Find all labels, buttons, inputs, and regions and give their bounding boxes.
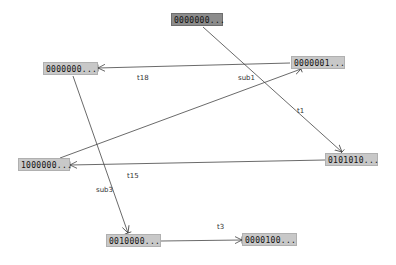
graph-node[interactable]: 0000100... (242, 233, 297, 246)
edge-label-t18: t18 (137, 74, 149, 82)
edge-label-t1: t1 (297, 107, 304, 115)
edge-t18[interactable] (98, 63, 290, 68)
graph-node-initial[interactable]: 0000000... (171, 13, 223, 26)
edge-sub1[interactable] (60, 69, 301, 158)
edge-label-sub1: sub1 (238, 74, 255, 82)
edge-t15[interactable] (70, 160, 325, 165)
graph-node[interactable]: 1000000... (18, 158, 70, 171)
edge-label-t15: t15 (127, 172, 139, 180)
edges-layer (0, 0, 396, 265)
graph-node[interactable]: 0101010... (325, 153, 378, 166)
edge-sub3[interactable] (73, 76, 128, 233)
edge-label-sub3: sub3 (96, 186, 113, 194)
graph-canvas[interactable]: 0000000... 0000000... 0000001... 1000000… (0, 0, 396, 265)
edge-t3[interactable] (161, 240, 242, 241)
graph-node[interactable]: 0010000... (106, 234, 161, 247)
graph-node[interactable]: 0000001... (291, 56, 345, 69)
graph-node[interactable]: 0000000... (43, 62, 98, 75)
edge-label-t3: t3 (217, 223, 224, 231)
edge-t1[interactable] (203, 27, 342, 152)
